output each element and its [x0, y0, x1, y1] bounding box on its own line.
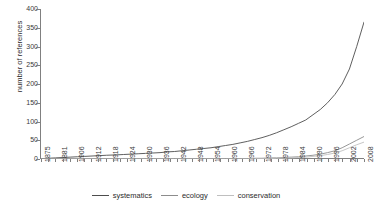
x-tick-mark [91, 159, 92, 162]
x-tick-mark [55, 159, 56, 162]
x-tick-mark [307, 159, 308, 162]
legend-item-systematics: systematics [92, 191, 152, 200]
y-tick-mark [36, 140, 40, 141]
x-tick-mark [350, 159, 351, 162]
x-tick-mark [342, 159, 343, 162]
x-tick-mark [106, 159, 107, 162]
x-tick-mark [84, 159, 85, 162]
y-tick-label: 150 [16, 99, 38, 106]
y-tick-label: 200 [16, 80, 38, 87]
x-tick-mark [242, 159, 243, 162]
x-tick-mark [120, 159, 121, 162]
legend-swatch-systematics [92, 195, 109, 196]
plot-area [41, 9, 364, 159]
x-tick-label: 2008 [367, 146, 374, 162]
x-tick-mark [141, 159, 142, 162]
y-tick-mark [36, 65, 40, 66]
y-tick-mark [36, 28, 40, 29]
x-tick-mark [235, 159, 236, 162]
y-tick-label: 350 [16, 24, 38, 31]
x-tick-mark [285, 159, 286, 162]
y-tick-label: 0 [16, 155, 38, 162]
x-tick-mark [127, 159, 128, 162]
x-tick-mark [328, 159, 329, 162]
x-tick-mark [48, 159, 49, 162]
x-tick-mark [206, 159, 207, 162]
y-tick-mark [36, 122, 40, 123]
x-tick-mark [63, 159, 64, 162]
y-tick-label: 400 [16, 5, 38, 12]
y-tick-label: 300 [16, 43, 38, 50]
y-tick-label: 100 [16, 118, 38, 125]
x-tick-mark [299, 159, 300, 162]
x-tick-mark [228, 159, 229, 162]
x-tick-mark [170, 159, 171, 162]
x-tick-mark [321, 159, 322, 162]
x-tick-mark [163, 159, 164, 162]
x-tick-mark [185, 159, 186, 162]
legend-item-ecology: ecology [161, 191, 208, 200]
x-tick-mark [98, 159, 99, 162]
y-tick-mark [36, 47, 40, 48]
series-lines [41, 9, 364, 159]
x-tick-mark [271, 159, 272, 162]
legend-item-conservation: conservation [217, 191, 281, 200]
legend-swatch-ecology [161, 195, 178, 196]
x-tick-label: 1996 [333, 146, 340, 162]
x-tick-mark [199, 159, 200, 162]
y-tick-mark [36, 103, 40, 104]
x-tick-mark [156, 159, 157, 162]
x-tick-label: 1942 [180, 146, 187, 162]
x-tick-mark [256, 159, 257, 162]
y-axis-tick-labels: 050100150200250300350400 [16, 0, 38, 211]
x-tick-mark [70, 159, 71, 162]
y-tick-label: 250 [16, 61, 38, 68]
x-tick-mark [314, 159, 315, 162]
x-tick-mark [249, 159, 250, 162]
x-tick-mark [364, 159, 365, 162]
x-tick-mark [357, 159, 358, 162]
legend-label: systematics [113, 191, 152, 200]
x-tick-mark [149, 159, 150, 162]
x-tick-mark [192, 159, 193, 162]
x-tick-mark [41, 159, 42, 162]
x-tick-mark [213, 159, 214, 162]
y-tick-mark [36, 159, 40, 160]
legend-label: conservation [238, 191, 281, 200]
x-tick-mark [292, 159, 293, 162]
x-tick-mark [278, 159, 279, 162]
y-tick-label: 50 [16, 136, 38, 143]
x-tick-mark [264, 159, 265, 162]
x-tick-mark [335, 159, 336, 162]
x-tick-mark [77, 159, 78, 162]
chart-legend: systematicsecologyconservation [0, 191, 372, 200]
x-tick-label: 1936 [163, 146, 170, 162]
y-tick-mark [36, 84, 40, 85]
x-tick-mark [220, 159, 221, 162]
legend-swatch-conservation [217, 195, 234, 196]
y-tick-mark [36, 9, 40, 10]
x-tick-mark [177, 159, 178, 162]
x-tick-mark [113, 159, 114, 162]
series-line-systematics [41, 22, 364, 159]
x-tick-mark [134, 159, 135, 162]
legend-label: ecology [182, 191, 208, 200]
x-tick-label: 1990 [316, 146, 323, 162]
